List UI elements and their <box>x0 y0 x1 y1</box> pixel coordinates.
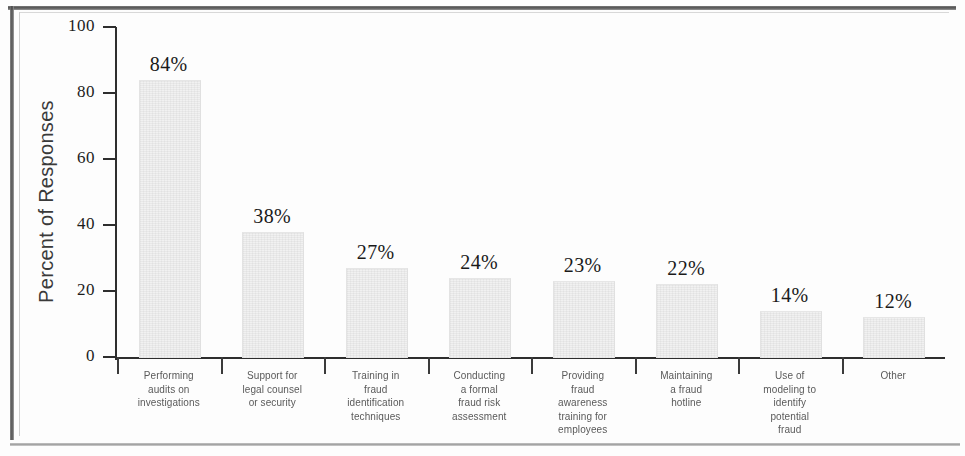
x-axis-category-label-line: a formal <box>428 383 532 397</box>
x-axis-category-label: Use ofmodeling toidentifypotentialfraud <box>738 369 842 437</box>
x-axis-category-label-line: Conducting <box>428 369 532 383</box>
x-axis-category-label: Performingaudits oninvestigations <box>117 369 221 410</box>
x-axis-category-label-line: assessment <box>428 410 532 424</box>
x-axis-category-label-line: employees <box>531 423 635 437</box>
x-axis-category-label-line: fraud risk <box>428 396 532 410</box>
x-axis-category-label-line: Other <box>842 369 946 383</box>
x-axis-category-label-line: investigations <box>117 396 221 410</box>
bar <box>346 268 408 358</box>
bar-value-label: 24% <box>419 251 539 274</box>
x-axis-category-label-line: potential <box>738 410 842 424</box>
y-axis-tick-label: 80 <box>35 82 95 102</box>
bar-series: 84%38%27%24%23%22%14%12% <box>117 27 945 358</box>
y-axis-tick-label: 0 <box>35 346 95 366</box>
bar-value-label: 84% <box>109 53 229 76</box>
bar <box>242 232 304 358</box>
x-axis-category-label-line: audits on <box>117 383 221 397</box>
bar-slot: 27% <box>324 27 428 358</box>
bar <box>449 278 511 358</box>
x-axis-category-label-line: fraud <box>531 383 635 397</box>
x-axis-category-label: Training infraudidentificationtechniques <box>324 369 428 423</box>
bar-slot: 14% <box>738 27 842 358</box>
bar-slot: 24% <box>428 27 532 358</box>
bar-value-label: 12% <box>833 290 953 313</box>
x-axis-category-label: Maintaininga fraudhotline <box>635 369 739 410</box>
x-axis-category-label-line: Support for <box>221 369 325 383</box>
x-axis-category-label-line: awareness <box>531 396 635 410</box>
bar <box>863 317 925 358</box>
x-axis-category-label-line: fraud <box>324 383 428 397</box>
x-axis-category-label-line: training for <box>531 410 635 424</box>
bar-slot: 22% <box>635 27 739 358</box>
chart-page: Percent of Responses 100806040200 84%38%… <box>0 0 965 456</box>
x-axis-category-label: Conductinga formalfraud riskassessment <box>428 369 532 423</box>
x-axis-category-label: Other <box>842 369 946 383</box>
bar <box>139 80 201 358</box>
x-axis-category-label-line: identification <box>324 396 428 410</box>
x-axis-category-label-line: Providing <box>531 369 635 383</box>
y-axis-tick-label: 100 <box>35 16 95 36</box>
bar-value-label: 22% <box>626 257 746 280</box>
bar-value-label: 14% <box>730 284 850 307</box>
bar-value-label: 27% <box>316 241 436 264</box>
bar-slot: 38% <box>221 27 325 358</box>
x-axis-category-label: Support forlegal counselor security <box>221 369 325 410</box>
x-axis-category-label-line: or security <box>221 396 325 410</box>
bar-value-label: 38% <box>212 205 332 228</box>
x-axis-category-label-line: fraud <box>738 423 842 437</box>
x-axis-category-label-line: Maintaining <box>635 369 739 383</box>
x-axis-category-label-line: hotline <box>635 396 739 410</box>
y-axis-tick-label: 60 <box>35 148 95 168</box>
x-axis-category-label-line: legal counsel <box>221 383 325 397</box>
x-axis-category-label-line: Use of <box>738 369 842 383</box>
bar-slot: 23% <box>531 27 635 358</box>
x-axis-category-label-line: Performing <box>117 369 221 383</box>
bar <box>656 284 718 358</box>
x-axis-category-label-line: identify <box>738 396 842 410</box>
y-axis-tick-label: 40 <box>35 214 95 234</box>
bar-chart: Percent of Responses 100806040200 84%38%… <box>0 0 965 456</box>
x-axis-category-label-line: techniques <box>324 410 428 424</box>
x-axis-category-label-line: Training in <box>324 369 428 383</box>
x-axis-category-label-line: a fraud <box>635 383 739 397</box>
bar-slot: 12% <box>842 27 946 358</box>
bar-value-label: 23% <box>523 254 643 277</box>
y-axis-tick-label: 20 <box>35 280 95 300</box>
x-axis-category-label: Providingfraudawarenesstraining foremplo… <box>531 369 635 437</box>
bar <box>760 311 822 358</box>
bar-slot: 84% <box>117 27 221 358</box>
x-axis-category-label-line: modeling to <box>738 383 842 397</box>
bar <box>553 281 615 358</box>
